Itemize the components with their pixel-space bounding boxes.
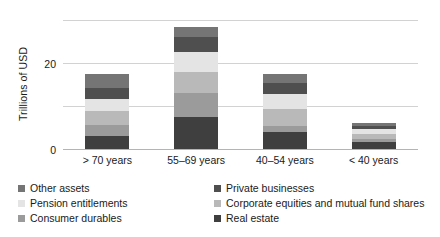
x-tick-label: 55–69 years	[152, 154, 241, 166]
legend-item: Other assets	[18, 183, 214, 194]
legend-swatch-icon	[18, 215, 25, 222]
legend-swatch-icon	[18, 185, 25, 192]
bar-segment	[174, 93, 218, 117]
axis-baseline	[63, 149, 418, 150]
legend-label: Pension entitlements	[30, 198, 127, 209]
stacked-bar	[263, 74, 307, 149]
bar-segment	[263, 83, 307, 94]
bar-segment	[85, 136, 129, 149]
stacked-bar-chart: Trillions of USD 0204060 > 70 years55–69…	[0, 0, 440, 237]
legend-label: Corporate equities and mutual fund share…	[226, 198, 424, 209]
bar-column	[329, 20, 418, 149]
bar-segment	[174, 37, 218, 52]
bar-segment	[85, 74, 129, 88]
bar-column	[152, 20, 241, 149]
x-tick-label: < 40 years	[329, 154, 418, 166]
bar-segment	[174, 72, 218, 93]
bar-column	[63, 20, 152, 149]
bar-segment	[85, 99, 129, 111]
legend-item: Private businesses	[214, 183, 428, 194]
plot-area: 0204060	[63, 20, 418, 150]
bar-segment	[263, 109, 307, 126]
stacked-bar	[352, 123, 396, 149]
bar-segment	[85, 111, 129, 125]
bar-segment	[174, 27, 218, 37]
bar-segment	[263, 94, 307, 110]
x-tick-label: > 70 years	[63, 154, 152, 166]
bar-segment	[263, 132, 307, 149]
legend-item: Pension entitlements	[18, 198, 214, 209]
y-tick-label: 0	[50, 145, 56, 156]
legend-item: Corporate equities and mutual fund share…	[214, 198, 428, 209]
bar-segment	[174, 52, 218, 73]
legend-item: Real estate	[214, 213, 428, 224]
legend-item: Consumer durables	[18, 213, 214, 224]
legend-swatch-icon	[214, 185, 221, 192]
bar-segment	[352, 142, 396, 149]
bar-column	[241, 20, 330, 149]
legend-swatch-icon	[214, 200, 221, 207]
legend-swatch-icon	[214, 215, 221, 222]
legend-label: Consumer durables	[30, 213, 122, 224]
bar-segment	[85, 125, 129, 136]
bar-group	[63, 20, 418, 149]
stacked-bar	[85, 74, 129, 149]
legend-swatch-icon	[18, 200, 25, 207]
chart-legend: Other assetsPrivate businessesPension en…	[18, 183, 428, 224]
x-axis-labels: > 70 years55–69 years40–54 years< 40 yea…	[63, 154, 418, 166]
stacked-bar	[174, 27, 218, 150]
legend-label: Private businesses	[226, 183, 314, 194]
legend-label: Other assets	[30, 183, 90, 194]
y-tick-label: 20	[44, 59, 56, 70]
bar-segment	[85, 88, 129, 100]
x-tick-label: 40–54 years	[241, 154, 330, 166]
bar-segment	[263, 74, 307, 83]
y-axis-title: Trillions of USD	[17, 14, 29, 154]
bar-segment	[174, 117, 218, 149]
legend-label: Real estate	[226, 213, 279, 224]
